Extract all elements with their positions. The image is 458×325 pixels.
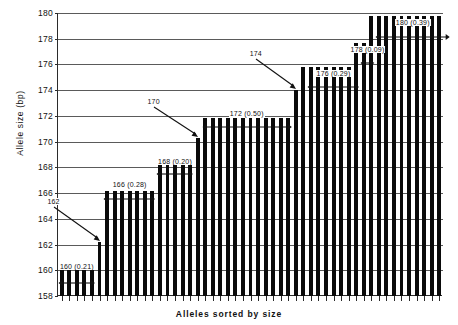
x-axis-tick-mark bbox=[386, 296, 387, 301]
x-axis-tick-mark bbox=[281, 296, 282, 301]
x-axis-tick-mark bbox=[371, 296, 372, 301]
bar bbox=[437, 16, 441, 296]
bar bbox=[135, 191, 139, 296]
bar bbox=[158, 165, 162, 296]
bar bbox=[415, 16, 419, 296]
x-axis-tick-mark bbox=[394, 296, 395, 301]
y-axis-tick-label: 176 bbox=[38, 59, 53, 69]
x-axis-tick-mark bbox=[379, 296, 380, 301]
bar bbox=[377, 16, 381, 296]
bar bbox=[316, 67, 320, 296]
bar bbox=[339, 67, 343, 296]
annotation-label-a160: 160 (0.21) bbox=[59, 263, 95, 270]
bar bbox=[422, 16, 426, 296]
span-arrow-a178 bbox=[360, 57, 375, 69]
x-axis-tick-mark bbox=[213, 296, 214, 301]
x-axis-tick-mark bbox=[424, 296, 425, 301]
allele-size-bar-chart: Allele size (bp) 15816016216416616817017… bbox=[0, 0, 458, 325]
x-axis-tick-mark bbox=[107, 296, 108, 301]
x-axis-tick-mark bbox=[175, 296, 176, 301]
annotation-label-a170: 170 bbox=[147, 98, 161, 105]
plot-area: 158160162164166168170172174176178180 160… bbox=[57, 13, 442, 296]
bar bbox=[150, 191, 154, 296]
annotation-label-a176: 176 (0.29) bbox=[316, 70, 352, 77]
bar bbox=[324, 67, 328, 296]
bar bbox=[98, 242, 102, 296]
pointer-arrow-a162 bbox=[52, 205, 108, 249]
annotation-label-a162: 162 bbox=[46, 198, 60, 205]
annotation-label-a172: 172 (0.50) bbox=[229, 110, 265, 117]
y-axis-tick-label: 166 bbox=[38, 188, 53, 198]
annotation-label-a166: 166 (0.28) bbox=[112, 181, 148, 188]
x-axis-title: Alleles sorted by size bbox=[0, 309, 458, 319]
x-axis-tick-mark bbox=[364, 296, 365, 301]
x-axis-tick-mark bbox=[258, 296, 259, 301]
x-axis-tick-mark bbox=[62, 296, 63, 301]
x-axis-tick-mark bbox=[160, 296, 161, 301]
x-axis-tick-mark bbox=[439, 296, 440, 301]
x-axis-tick-mark bbox=[356, 296, 357, 301]
x-axis-tick-mark bbox=[273, 296, 274, 301]
y-axis-tick-label: 158 bbox=[38, 291, 53, 301]
bar bbox=[188, 165, 192, 296]
x-axis-tick-mark bbox=[145, 296, 146, 301]
bar bbox=[233, 118, 237, 296]
bar bbox=[249, 118, 253, 296]
x-axis-tick-mark bbox=[341, 296, 342, 301]
x-axis-tick-mark bbox=[115, 296, 116, 301]
bar bbox=[173, 165, 177, 296]
x-axis-tick-mark bbox=[401, 296, 402, 301]
y-axis-tick-label: 160 bbox=[38, 265, 53, 275]
bar bbox=[218, 118, 222, 296]
x-axis-tick-mark bbox=[69, 296, 70, 301]
x-axis-tick-mark bbox=[77, 296, 78, 301]
x-axis-tick-mark bbox=[326, 296, 327, 301]
bar bbox=[286, 118, 290, 296]
bar bbox=[400, 16, 404, 296]
y-axis-title: Allele size (bp) bbox=[15, 63, 25, 183]
bar bbox=[384, 16, 388, 296]
bar bbox=[120, 191, 124, 296]
annotation-label-a174: 174 bbox=[249, 50, 263, 57]
x-axis-tick-mark bbox=[183, 296, 184, 301]
x-axis-tick-mark bbox=[92, 296, 93, 301]
annotation-label-a180: 180 (0.39) bbox=[395, 19, 431, 26]
x-axis-tick-mark bbox=[198, 296, 199, 301]
y-axis-tick-label: 174 bbox=[38, 85, 53, 95]
annotation-label-a168: 168 (0.20) bbox=[157, 158, 193, 165]
x-axis-tick-mark bbox=[235, 296, 236, 301]
y-axis-tick-label: 168 bbox=[38, 162, 53, 172]
x-axis-tick-mark bbox=[152, 296, 153, 301]
bar bbox=[430, 16, 434, 296]
bar bbox=[301, 67, 305, 296]
bar bbox=[143, 191, 147, 296]
x-axis-tick-mark bbox=[334, 296, 335, 301]
bar bbox=[362, 43, 366, 296]
x-axis-tick-mark bbox=[349, 296, 350, 301]
bar bbox=[226, 118, 230, 296]
x-axis-tick-mark bbox=[266, 296, 267, 301]
y-axis-tick-label: 180 bbox=[38, 8, 53, 18]
span-arrow-a168 bbox=[156, 168, 193, 180]
bar bbox=[181, 165, 185, 296]
x-axis-tick-mark bbox=[409, 296, 410, 301]
bar bbox=[264, 118, 268, 296]
span-arrow-a180 bbox=[375, 31, 450, 43]
bar bbox=[196, 138, 200, 296]
bar bbox=[241, 118, 245, 296]
x-axis-tick-mark bbox=[311, 296, 312, 301]
span-arrow-a172 bbox=[202, 121, 292, 133]
x-axis-tick-mark bbox=[220, 296, 221, 301]
bar bbox=[332, 67, 336, 296]
x-axis-tick-mark bbox=[100, 296, 101, 301]
bar bbox=[309, 67, 313, 296]
x-axis-tick-mark bbox=[167, 296, 168, 301]
y-axis-tick-label: 172 bbox=[38, 111, 53, 121]
x-axis-tick-mark bbox=[205, 296, 206, 301]
x-axis-tick-mark bbox=[122, 296, 123, 301]
x-axis-tick-mark bbox=[243, 296, 244, 301]
x-axis-tick-mark bbox=[417, 296, 418, 301]
bar bbox=[407, 16, 411, 296]
bar bbox=[166, 165, 170, 296]
x-axis-tick-mark bbox=[296, 296, 297, 301]
